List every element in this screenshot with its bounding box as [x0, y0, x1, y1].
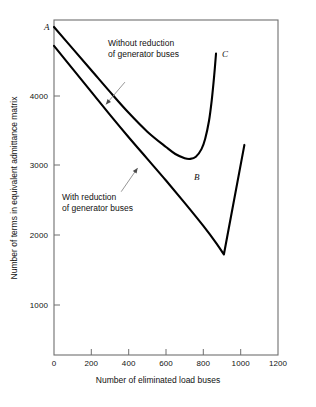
- x-tick-label-1000: 1000: [232, 359, 250, 368]
- x-tick-label-1200: 1200: [269, 359, 287, 368]
- axes-frame: [54, 20, 278, 355]
- without-reduction-line-2: of generator buses: [108, 49, 179, 60]
- plot-canvas: [0, 0, 316, 407]
- point-label-b: B: [194, 172, 200, 182]
- with-reduction-annotation: With reduction of generator buses: [62, 192, 133, 214]
- x-axis-title: Number of eliminated load buses: [96, 375, 220, 385]
- x-tick-label-0: 0: [52, 359, 57, 368]
- y-tick-label-1000: 1000: [4, 301, 48, 310]
- plot-frame-box: [54, 20, 278, 355]
- without-reduction-line-1: Without reduction: [108, 38, 179, 49]
- with-reduction-line-1: With reduction: [62, 192, 133, 203]
- y-axis-title: Number of terms in equivalent admittance…: [9, 97, 19, 280]
- without-reduction-annotation: Without reduction of generator buses: [108, 38, 179, 60]
- x-tick-label-400: 400: [122, 359, 136, 368]
- x-tick-label-800: 800: [196, 359, 210, 368]
- point-label-c: C: [222, 49, 228, 59]
- with-reduction-line-2: of generator buses: [62, 203, 133, 214]
- chart-figure: 4000 3000 2000 1000 0 200 400 600 800 10…: [0, 0, 316, 407]
- x-tick-label-600: 600: [159, 359, 173, 368]
- point-label-a: A: [44, 22, 50, 32]
- x-tick-label-200: 200: [84, 359, 98, 368]
